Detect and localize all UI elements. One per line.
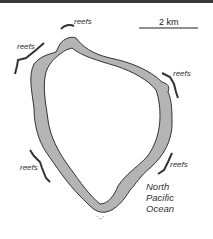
ocean-label-line-3: Ocean — [146, 203, 174, 214]
reef-label-southwest: reefs — [20, 164, 38, 172]
ocean-label: North Pacific Ocean — [146, 181, 174, 214]
ocean-label-line-1: North — [146, 181, 174, 192]
atoll-map: ·..· — [0, 0, 213, 239]
reef-label-north: reefs — [74, 18, 92, 26]
reef-north — [61, 25, 74, 29]
reef-label-northeast: reefs — [173, 70, 191, 78]
scale-label: 2 km — [159, 17, 179, 27]
ocean-label-line-2: Pacific — [146, 192, 174, 203]
bottom-dots: ·..· — [96, 213, 105, 220]
reef-label-northwest: reefs — [17, 43, 35, 51]
reef-label-southeast: reefs — [170, 161, 188, 169]
